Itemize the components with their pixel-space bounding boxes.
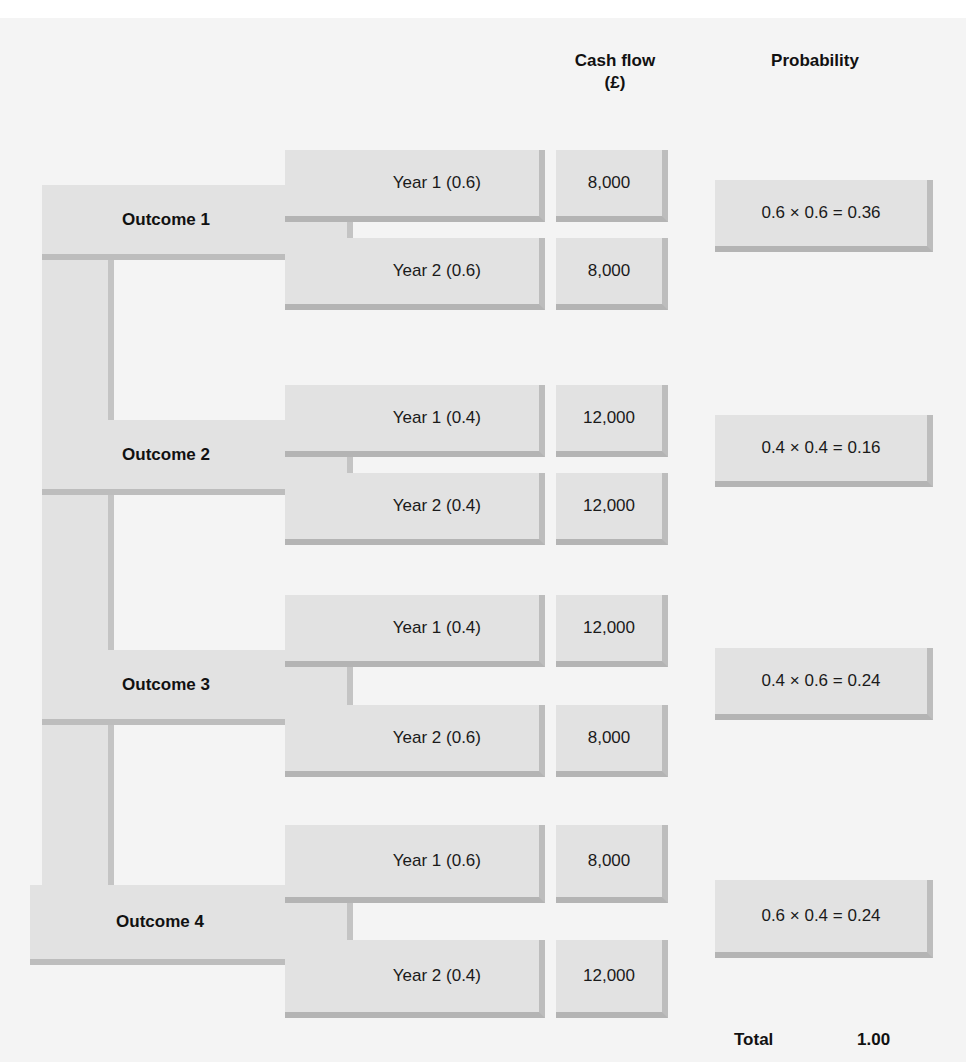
outcome-3-node: Outcome 3 xyxy=(42,650,290,725)
outcome-2-year-2: Year 2 (0.4) xyxy=(285,473,545,545)
outcome-1-node: Outcome 1 xyxy=(42,185,290,260)
cash-value: 8,000 xyxy=(588,728,631,748)
outcome-4-year-2-cash: 12,000 xyxy=(556,940,668,1018)
outcome-3-year-2-label: Year 2 (0.6) xyxy=(393,728,481,748)
outcome-1-year-2-cash: 8,000 xyxy=(556,238,668,310)
outcome-1-label: Outcome 1 xyxy=(122,210,210,230)
cash-value: 12,000 xyxy=(583,966,635,986)
outcome-4-label: Outcome 4 xyxy=(116,912,204,932)
total-label: Total xyxy=(734,1030,773,1050)
outcome-1-year-1-label: Year 1 (0.6) xyxy=(393,173,481,193)
outcome-1-year-1-cash: 8,000 xyxy=(556,150,668,222)
probability-value: 0.4 × 0.6 = 0.24 xyxy=(761,671,880,691)
outcome-3-year-1-cash: 12,000 xyxy=(556,595,668,667)
probability-value: 0.6 × 0.6 = 0.36 xyxy=(761,203,880,223)
outcome-1-year-2: Year 2 (0.6) xyxy=(285,238,545,310)
outcome-2-year-1-cash: 12,000 xyxy=(556,385,668,457)
total-value: 1.00 xyxy=(857,1030,890,1050)
cash-value: 8,000 xyxy=(588,261,631,281)
cash-value: 12,000 xyxy=(583,618,635,638)
outcome-2-year-1: Year 1 (0.4) xyxy=(285,385,545,457)
outcome-2-probability: 0.4 × 0.4 = 0.16 xyxy=(715,415,933,487)
cash-value: 8,000 xyxy=(588,173,631,193)
outcome-3-year-2: Year 2 (0.6) xyxy=(285,705,545,777)
outcome-4-year-1: Year 1 (0.6) xyxy=(285,825,545,903)
outcome-3-probability: 0.4 × 0.6 = 0.24 xyxy=(715,648,933,720)
outcome-3-year-2-cash: 8,000 xyxy=(556,705,668,777)
probability-value: 0.4 × 0.4 = 0.16 xyxy=(761,438,880,458)
cash-value: 12,000 xyxy=(583,496,635,516)
cash-flow-header-unit: (£) xyxy=(560,72,670,94)
cash-value: 8,000 xyxy=(588,851,631,871)
outcome-2-node: Outcome 2 xyxy=(42,420,290,495)
outcome-2-year-2-label: Year 2 (0.4) xyxy=(393,496,481,516)
outcome-2-label: Outcome 2 xyxy=(122,445,210,465)
outcome-4-year-2-label: Year 2 (0.4) xyxy=(393,966,481,986)
outcome-1-year-1: Year 1 (0.6) xyxy=(285,150,545,222)
probability-value: 0.6 × 0.4 = 0.24 xyxy=(761,906,880,926)
cash-flow-header: Cash flow (£) xyxy=(560,50,670,94)
outcome-1-probability: 0.6 × 0.6 = 0.36 xyxy=(715,180,933,252)
outcome-3-year-1-label: Year 1 (0.4) xyxy=(393,618,481,638)
outcome-4-year-1-cash: 8,000 xyxy=(556,825,668,903)
outcome-3-year-1: Year 1 (0.4) xyxy=(285,595,545,667)
outcome-4-year-2: Year 2 (0.4) xyxy=(285,940,545,1018)
cash-flow-header-title: Cash flow xyxy=(560,50,670,72)
outcome-2-year-2-cash: 12,000 xyxy=(556,473,668,545)
outcome-4-probability: 0.6 × 0.4 = 0.24 xyxy=(715,880,933,958)
tree-trunk xyxy=(42,185,114,965)
cash-value: 12,000 xyxy=(583,408,635,428)
outcome-2-year-1-label: Year 1 (0.4) xyxy=(393,408,481,428)
outcome-4-node: Outcome 4 xyxy=(30,885,290,965)
outcome-1-year-2-label: Year 2 (0.6) xyxy=(393,261,481,281)
outcome-3-label: Outcome 3 xyxy=(122,675,210,695)
probability-header: Probability xyxy=(755,50,875,72)
outcome-4-year-1-label: Year 1 (0.6) xyxy=(393,851,481,871)
